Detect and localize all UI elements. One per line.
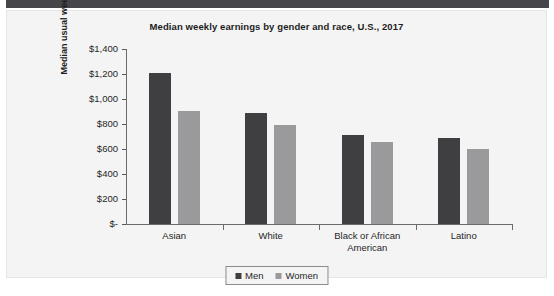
y-axis-tick-label: $200 bbox=[97, 193, 118, 205]
y-axis-tick-label: $800 bbox=[97, 118, 118, 130]
legend-item-men[interactable]: Men bbox=[235, 270, 263, 281]
x-axis-tick-labels: AsianWhiteBlack or African AmericanLatin… bbox=[126, 230, 513, 266]
bar-women bbox=[467, 149, 489, 224]
y-axis-tick-label: $400 bbox=[97, 168, 118, 180]
y-axis-tick-label: $1,400 bbox=[89, 43, 118, 55]
bar-men bbox=[149, 73, 171, 224]
chart-legend: MenWomen bbox=[225, 266, 328, 285]
y-axis-tick-label: $- bbox=[110, 218, 118, 230]
legend-item-women[interactable]: Women bbox=[275, 270, 318, 281]
legend-swatch-icon bbox=[235, 273, 241, 279]
x-axis-tick-mark bbox=[223, 225, 224, 230]
bar-group bbox=[319, 49, 416, 224]
bar-women bbox=[371, 142, 393, 224]
bar-men bbox=[438, 138, 460, 224]
bar-group bbox=[223, 49, 320, 224]
y-axis-tick-label: $1,000 bbox=[89, 93, 118, 105]
bar-men bbox=[245, 113, 267, 224]
y-axis-tick-label: $600 bbox=[97, 143, 118, 155]
chart-title: Median weekly earnings by gender and rac… bbox=[7, 21, 546, 32]
chart-panel: Median weekly earnings by gender and rac… bbox=[6, 10, 547, 278]
bar-group bbox=[126, 49, 223, 224]
bar-women bbox=[274, 125, 296, 224]
plot-area bbox=[126, 49, 512, 224]
bar-women bbox=[178, 111, 200, 224]
x-axis-tick-mark bbox=[416, 225, 417, 230]
bar-group bbox=[416, 49, 513, 224]
x-axis-tick-mark bbox=[319, 225, 320, 230]
legend-swatch-icon bbox=[275, 273, 281, 279]
legend-label: Women bbox=[285, 270, 318, 281]
bar-men bbox=[342, 135, 364, 224]
x-axis-tick-label: Latino bbox=[416, 230, 513, 242]
y-axis-tick-label: $1,200 bbox=[89, 68, 118, 80]
x-axis-tick-mark bbox=[512, 225, 513, 230]
top-band bbox=[6, 0, 549, 8]
chart-figure: Median weekly earnings by gender and rac… bbox=[0, 0, 554, 296]
legend-label: Men bbox=[245, 270, 263, 281]
x-axis-tick-label: Black or African American bbox=[319, 230, 416, 254]
x-axis-tick-label: Asian bbox=[126, 230, 223, 242]
x-axis-tick-label: White bbox=[223, 230, 320, 242]
y-axis-tick-labels: $1,400$1,200$1,000$800$600$400$200$- bbox=[7, 41, 126, 231]
